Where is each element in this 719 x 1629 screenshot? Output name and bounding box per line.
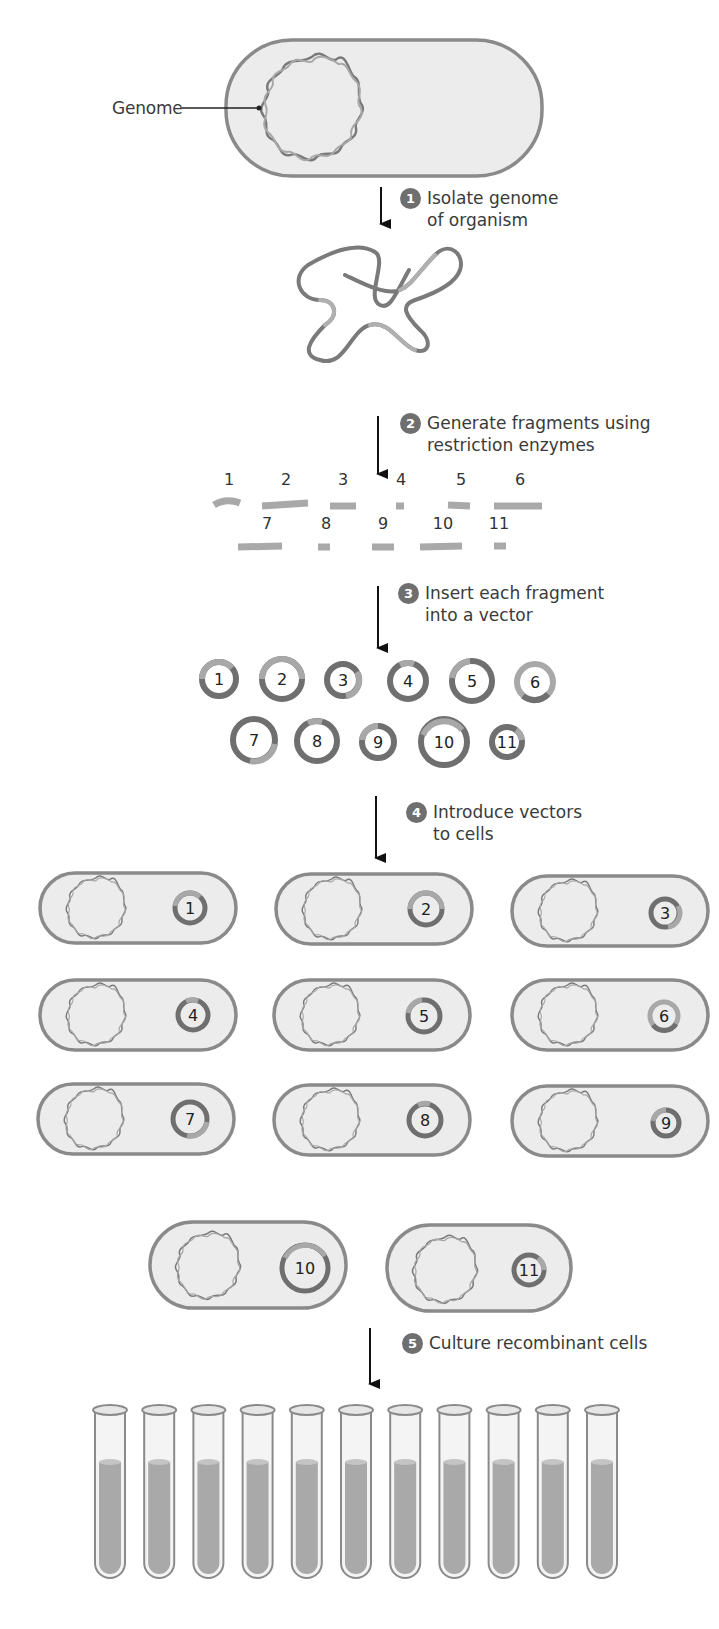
vector-label: 3 — [338, 671, 348, 690]
vector-label: 1 — [214, 670, 224, 689]
cell-vector-label: 11 — [519, 1261, 539, 1280]
step-3: 3 Insert each fragment into a vector — [398, 582, 604, 626]
fragment-2 — [262, 503, 308, 506]
cell-vector-label: 8 — [420, 1111, 430, 1130]
cell-vector-label: 10 — [295, 1259, 315, 1278]
fragment-label: 1 — [224, 470, 234, 489]
vector-label: 2 — [277, 670, 287, 689]
cell-5 — [274, 980, 470, 1050]
fragment-5 — [448, 505, 470, 506]
cell-10 — [150, 1222, 346, 1308]
fragment-label: 5 — [456, 470, 466, 489]
vector-label: 4 — [403, 672, 413, 691]
step-4-badge: 4 — [406, 802, 427, 823]
vector-label: 8 — [312, 732, 322, 751]
vector-label: 6 — [530, 673, 540, 692]
cell-vector-label: 7 — [185, 1110, 195, 1129]
fragment-label: 4 — [396, 470, 406, 489]
fragment-7 — [238, 546, 282, 547]
step-1: 1 Isolate genome of organism — [400, 187, 558, 231]
step-5: 5 Culture recombinant cells — [402, 1332, 647, 1354]
fragment-label: 9 — [378, 514, 388, 533]
fragment-label: 11 — [489, 514, 509, 533]
step-4-text: Introduce vectors to cells — [433, 801, 582, 845]
step-1-badge: 1 — [400, 188, 421, 209]
fragment-label: 10 — [433, 514, 453, 533]
cell-vector-label: 6 — [659, 1007, 669, 1026]
vector-label: 9 — [373, 733, 383, 752]
cell-8 — [274, 1085, 470, 1155]
culture-tubes — [93, 1405, 619, 1578]
fragment-1 — [214, 501, 240, 505]
cell-3 — [512, 876, 708, 946]
fragment-label: 2 — [281, 470, 291, 489]
isolated-genome-strand — [299, 248, 461, 362]
cell-2 — [276, 874, 472, 944]
culture-tube — [388, 1405, 422, 1578]
vector-label: 5 — [467, 672, 477, 691]
recombinant-cells — [38, 873, 708, 1311]
culture-tube — [339, 1405, 373, 1578]
culture-tube — [585, 1405, 619, 1578]
step-3-text: Insert each fragment into a vector — [425, 582, 604, 626]
cell-6 — [512, 980, 708, 1050]
culture-tube — [487, 1405, 521, 1578]
cell-vector-label: 4 — [188, 1006, 198, 1025]
step-2: 2 Generate fragments using restriction e… — [400, 412, 651, 456]
step-3-badge: 3 — [398, 583, 419, 604]
vector-label: 11 — [497, 733, 517, 752]
step-1-text: Isolate genome of organism — [427, 187, 558, 231]
culture-tube — [191, 1405, 225, 1578]
genome-label: Genome — [112, 97, 183, 119]
culture-tube — [142, 1405, 176, 1578]
fragment-label: 6 — [515, 470, 525, 489]
vector-label: 10 — [434, 733, 454, 752]
step-5-badge: 5 — [402, 1333, 423, 1354]
culture-tube — [536, 1405, 570, 1578]
diagram-canvas — [0, 0, 719, 1629]
cell-1 — [40, 873, 236, 943]
cell-vector-label: 1 — [185, 899, 195, 918]
cell-vector-label: 5 — [419, 1007, 429, 1026]
cell-vector-label: 3 — [660, 904, 670, 923]
cell-7 — [38, 1084, 234, 1154]
fragment-10 — [420, 546, 462, 547]
cell-vector-label: 9 — [661, 1114, 671, 1133]
culture-tube — [437, 1405, 471, 1578]
cell-11 — [387, 1225, 571, 1311]
step-2-text: Generate fragments using restriction enz… — [427, 412, 651, 456]
fragment-label: 3 — [338, 470, 348, 489]
step-2-badge: 2 — [400, 413, 421, 434]
vector-label: 7 — [249, 731, 259, 750]
cell-9 — [512, 1086, 708, 1156]
step-4: 4 Introduce vectors to cells — [406, 801, 582, 845]
culture-tube — [290, 1405, 324, 1578]
culture-tube — [93, 1405, 127, 1578]
cell-4 — [40, 980, 236, 1050]
fragment-label: 8 — [321, 514, 331, 533]
source-cell — [226, 40, 542, 176]
culture-tube — [241, 1405, 275, 1578]
step-5-text: Culture recombinant cells — [429, 1332, 647, 1354]
fragment-label: 7 — [262, 514, 272, 533]
cell-vector-label: 2 — [421, 900, 431, 919]
